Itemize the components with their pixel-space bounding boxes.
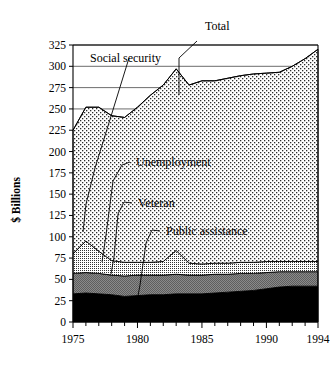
x-tick-label-1980: 1980	[126, 333, 149, 345]
y-tick-label-300: 300	[49, 60, 67, 72]
annotation-label-unemployment: Unemployment	[136, 155, 211, 169]
y-axis-tick-labels: 0255075100125150175200225250275300325	[49, 39, 67, 328]
y-tick-label-175: 175	[49, 167, 67, 179]
y-axis-ticks	[69, 45, 73, 322]
y-tick-label-125: 125	[49, 209, 67, 221]
y-tick-label-75: 75	[55, 252, 67, 264]
y-tick-label-50: 50	[55, 273, 67, 285]
y-tick-label-225: 225	[49, 124, 67, 136]
y-tick-label-250: 250	[49, 103, 67, 115]
stacked-area-chart: 0255075100125150175200225250275300325 19…	[0, 0, 336, 372]
x-tick-label-1975: 1975	[62, 333, 85, 345]
x-axis-ticks	[73, 322, 318, 328]
y-tick-label-200: 200	[49, 146, 67, 158]
annotation-label-total: Total	[205, 19, 230, 33]
x-axis-tick-labels: 19751980198519901994	[62, 333, 330, 345]
y-axis-title: $ Billions	[10, 177, 22, 223]
annotation-label-public-assistance: Public assistance	[166, 224, 248, 238]
y-tick-label-0: 0	[60, 316, 66, 328]
x-tick-label-1994: 1994	[307, 333, 330, 345]
y-tick-label-25: 25	[55, 295, 67, 307]
chart-container: 0255075100125150175200225250275300325 19…	[0, 0, 336, 372]
y-tick-label-325: 325	[49, 39, 67, 51]
x-tick-label-1985: 1985	[190, 333, 213, 345]
x-tick-label-1990: 1990	[255, 333, 278, 345]
y-tick-label-275: 275	[49, 82, 67, 94]
y-tick-label-150: 150	[49, 188, 67, 200]
y-tick-label-100: 100	[49, 231, 67, 243]
annotation-label-social-security: Social security	[90, 51, 161, 65]
annotation-label-veteran: Veteran	[138, 196, 175, 210]
